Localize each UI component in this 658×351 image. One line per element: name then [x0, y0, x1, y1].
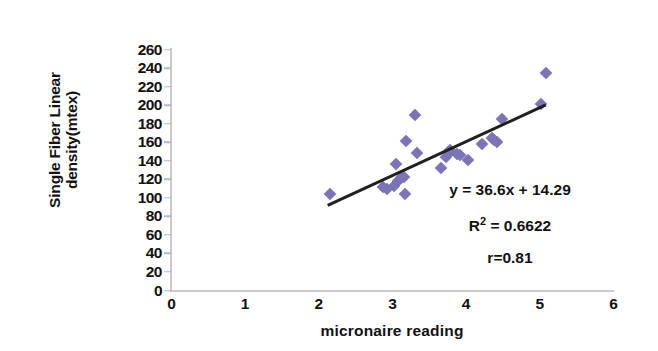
correlation-coefficient-label: r=0.81 — [402, 250, 618, 266]
x-axis-title: micronaire reading — [170, 322, 614, 340]
x-axis-tick-labels: 0123456 — [0, 296, 658, 320]
r-squared-value: = 0.6622 — [486, 217, 551, 234]
x-tick-label: 6 — [594, 296, 634, 312]
r-squared-label: R2 = 0.6622 — [402, 216, 618, 234]
r-squared-prefix: R — [469, 217, 480, 234]
x-tick-label: 1 — [225, 296, 265, 312]
x-tick-label: 4 — [446, 296, 486, 312]
x-tick-label: 0 — [152, 296, 192, 312]
regression-equation-label: y = 36.6x + 14.29 — [402, 182, 618, 198]
x-tick-label: 5 — [520, 296, 560, 312]
x-tick-label: 2 — [299, 296, 339, 312]
x-tick-label: 3 — [373, 296, 413, 312]
chart-figure: Single Fiber Linear density(mtex) 020406… — [0, 0, 658, 351]
